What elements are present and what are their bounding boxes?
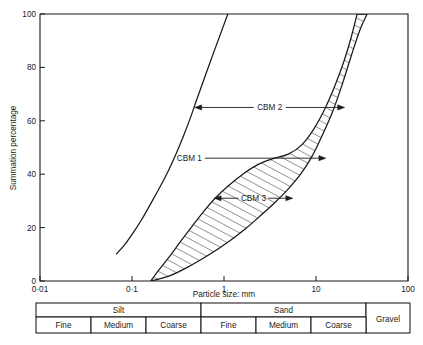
- x-tick-label: 0·1: [126, 285, 138, 294]
- cbm1-annotation-label: CBM 1: [177, 154, 202, 163]
- y-tick-label: 80: [27, 63, 37, 72]
- grading-curve-chart: 0·010·1110100 020406080100 Particle size…: [0, 0, 423, 345]
- table-label-sand-medium: Medium: [269, 321, 298, 330]
- particle-size-distribution-figure: 0·010·1110100 020406080100 Particle size…: [0, 0, 423, 345]
- table-label-gravel: Gravel: [376, 315, 400, 324]
- table-label-sand-coarse: Coarse: [325, 321, 352, 330]
- y-tick-label: 40: [27, 170, 37, 179]
- x-tick-label: 100: [401, 285, 415, 294]
- x-tick-label: 10: [311, 285, 321, 294]
- y-tick-label: 100: [22, 10, 36, 19]
- cbm2-annotation-label: CBM 2: [257, 103, 282, 112]
- table-label-silt: Silt: [113, 306, 125, 315]
- table-label-sand: Sand: [274, 306, 294, 315]
- table-label-sand-fine: Fine: [221, 321, 237, 330]
- table-label-silt-medium: Medium: [104, 321, 133, 330]
- table-label-silt-fine: Fine: [56, 321, 72, 330]
- x-axis-title: Particle size: mm: [193, 290, 256, 299]
- table-label-silt-coarse: Coarse: [160, 321, 187, 330]
- y-tick-label: 0: [31, 277, 36, 286]
- cbm3-annotation-label: CBM 3: [241, 194, 266, 203]
- y-axis-title: Summation percentage: [9, 105, 18, 190]
- soil-classification-table: Silt Sand Gravel Fine Medium Coarse Fine…: [36, 303, 410, 333]
- x-tick-label: 0·01: [32, 285, 49, 294]
- y-tick-label: 20: [27, 224, 37, 233]
- y-tick-label: 60: [27, 117, 37, 126]
